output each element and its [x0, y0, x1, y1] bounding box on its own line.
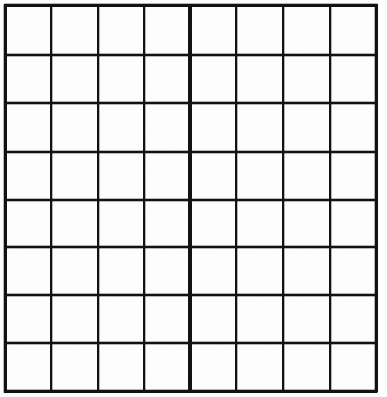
grid-cell-r7-c4[interactable] — [144, 295, 190, 343]
grid-cell-r1-c8[interactable] — [330, 5, 376, 55]
grid-cell-r6-c1[interactable] — [5, 247, 51, 295]
grid-cell-r2-c8[interactable] — [330, 55, 376, 103]
grid-cell-r6-c3[interactable] — [98, 247, 144, 295]
grid-line-horizontal-4 — [4, 199, 377, 201]
grid-cell-r1-c6[interactable] — [236, 5, 283, 55]
grid-cell-r6-c4[interactable] — [144, 247, 190, 295]
grid-cell-r6-c2[interactable] — [51, 247, 98, 295]
grid-cell-r7-c6[interactable] — [236, 295, 283, 343]
grid-cell-r4-c8[interactable] — [330, 152, 376, 200]
grid-cell-r2-c2[interactable] — [51, 55, 98, 103]
grid-cell-r2-c7[interactable] — [283, 55, 330, 103]
grid-cell-r8-c2[interactable] — [51, 343, 98, 391]
grid-cell-r1-c3[interactable] — [98, 5, 144, 55]
grid-cell-r4-c5[interactable] — [190, 152, 236, 200]
grid-cell-r5-c1[interactable] — [5, 200, 51, 247]
grid-cell-r3-c2[interactable] — [51, 103, 98, 152]
grid-cell-r7-c7[interactable] — [283, 295, 330, 343]
grid-cell-r7-c1[interactable] — [5, 295, 51, 343]
grid-cell-r3-c3[interactable] — [98, 103, 144, 152]
grid-cell-r7-c5[interactable] — [190, 295, 236, 343]
grid-cell-r1-c4[interactable] — [144, 5, 190, 55]
grid-cell-r3-c8[interactable] — [330, 103, 376, 152]
grid-cell-r1-c2[interactable] — [51, 5, 98, 55]
grid-cell-r5-c5[interactable] — [190, 200, 236, 247]
grid-cell-r3-c4[interactable] — [144, 103, 190, 152]
grid-cell-r5-c3[interactable] — [98, 200, 144, 247]
grid-cell-r3-c1[interactable] — [5, 103, 51, 152]
grid-cell-r6-c7[interactable] — [283, 247, 330, 295]
grid-line-horizontal-3 — [4, 151, 377, 153]
grid-line-horizontal-1 — [4, 54, 377, 56]
page-root — [0, 0, 387, 397]
grid-cell-r8-c5[interactable] — [190, 343, 236, 391]
grid-cell-r2-c4[interactable] — [144, 55, 190, 103]
grid-cell-r4-c3[interactable] — [98, 152, 144, 200]
grid-cell-r3-c6[interactable] — [236, 103, 283, 152]
grid-cell-r8-c7[interactable] — [283, 343, 330, 391]
grid-cell-r4-c2[interactable] — [51, 152, 98, 200]
grid-cell-r1-c1[interactable] — [5, 5, 51, 55]
grid-cell-r2-c6[interactable] — [236, 55, 283, 103]
grid-cell-r5-c4[interactable] — [144, 200, 190, 247]
grid-cell-r6-c8[interactable] — [330, 247, 376, 295]
grid-cell-r3-c7[interactable] — [283, 103, 330, 152]
grid-border-bottom — [4, 390, 377, 393]
grid-line-horizontal-7 — [4, 342, 377, 344]
grid-cell-r4-c4[interactable] — [144, 152, 190, 200]
grid-cell-r6-c6[interactable] — [236, 247, 283, 295]
grid-cell-r4-c1[interactable] — [5, 152, 51, 200]
grid-cell-r5-c8[interactable] — [330, 200, 376, 247]
grid-cell-r2-c5[interactable] — [190, 55, 236, 103]
grid-cell-r5-c2[interactable] — [51, 200, 98, 247]
grid-cell-r8-c1[interactable] — [5, 343, 51, 391]
grid-cell-r2-c1[interactable] — [5, 55, 51, 103]
grid-line-horizontal-6 — [4, 294, 377, 296]
grid-line-horizontal-5 — [4, 246, 377, 248]
grid-cell-r7-c3[interactable] — [98, 295, 144, 343]
grid-cell-r1-c5[interactable] — [190, 5, 236, 55]
grid-cell-r6-c5[interactable] — [190, 247, 236, 295]
grid-border-top — [4, 4, 377, 7]
grid-cell-r5-c6[interactable] — [236, 200, 283, 247]
grid-cell-r5-c7[interactable] — [283, 200, 330, 247]
grid-cell-r8-c8[interactable] — [330, 343, 376, 391]
grid-cell-r4-c7[interactable] — [283, 152, 330, 200]
grid-cell-r8-c4[interactable] — [144, 343, 190, 391]
grid-cell-r4-c6[interactable] — [236, 152, 283, 200]
grid-cell-r7-c8[interactable] — [330, 295, 376, 343]
grid-line-horizontal-2 — [4, 102, 377, 105]
grid-cell-r7-c2[interactable] — [51, 295, 98, 343]
grid-figure[interactable] — [0, 0, 387, 397]
grid-cell-r1-c7[interactable] — [283, 5, 330, 55]
grid-cell-r8-c3[interactable] — [98, 343, 144, 391]
grid-cell-r3-c5[interactable] — [190, 103, 236, 152]
grid-cell-r8-c6[interactable] — [236, 343, 283, 391]
grid-cell-r2-c3[interactable] — [98, 55, 144, 103]
